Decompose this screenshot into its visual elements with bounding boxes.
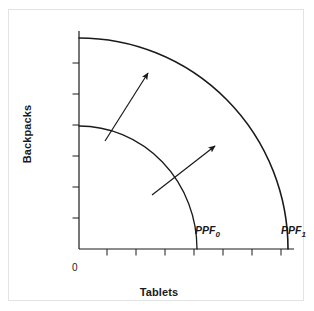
ppf-plot-area <box>9 10 303 300</box>
ppf0-curve <box>79 126 197 249</box>
shift-arrow-upper <box>105 73 148 141</box>
ppf1-label-subscript: 1 <box>301 230 305 239</box>
y-axis-ticks <box>73 63 80 218</box>
ppf-chart-figure: Backpacks Tablets 0 PPF0 PPF1 <box>0 0 314 311</box>
ppf1-curve <box>79 38 288 249</box>
x-axis-ticks <box>107 249 281 256</box>
y-axis-title: Backpacks <box>21 88 33 180</box>
ppf0-label-text: PPF <box>195 224 215 236</box>
ppf0-label-subscript: 0 <box>215 230 219 239</box>
ppf1-label-text: PPF <box>281 224 301 236</box>
origin-label: 0 <box>72 262 78 273</box>
shift-arrow-lower <box>152 146 215 195</box>
ppf0-label: PPF0 <box>195 224 220 239</box>
ppf1-label: PPF1 <box>281 224 306 239</box>
figure-border: Backpacks Tablets 0 PPF0 PPF1 <box>8 9 304 301</box>
x-axis-title: Tablets <box>104 286 214 298</box>
